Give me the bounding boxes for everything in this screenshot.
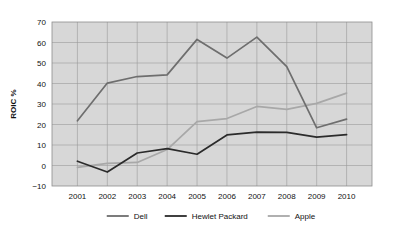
x-tick-label: 2003: [128, 192, 146, 201]
legend-label: Dell: [134, 212, 148, 221]
y-tick-label: 60: [37, 39, 46, 48]
y-tick-label: 50: [37, 59, 46, 68]
x-tick-label: 2005: [188, 192, 206, 201]
x-tick-label: 2004: [158, 192, 176, 201]
x-tick-label: 2007: [248, 192, 266, 201]
y-tick-label: 10: [37, 141, 46, 150]
x-tick-label: 2008: [278, 192, 296, 201]
y-tick-label: −10: [32, 182, 46, 191]
y-tick-label: 40: [37, 80, 46, 89]
x-tick-label: 2001: [69, 192, 87, 201]
y-tick-label: 0: [42, 162, 47, 171]
legend-label: Hewlet Packard: [192, 212, 248, 221]
chart-canvas: −10010203040506070 200120022003200420052…: [0, 0, 396, 232]
y-tick-label: 70: [37, 18, 46, 27]
y-tick-label: 20: [37, 121, 46, 130]
x-tick-label: 2009: [308, 192, 326, 201]
legend-label: Apple: [295, 212, 316, 221]
roic-line-chart: −10010203040506070 200120022003200420052…: [0, 0, 396, 232]
x-tick-label: 2010: [338, 192, 356, 201]
y-axis-title: ROIC %: [9, 89, 18, 118]
y-tick-label: 30: [37, 100, 46, 109]
x-tick-label: 2002: [98, 192, 116, 201]
x-tick-label: 2006: [218, 192, 236, 201]
